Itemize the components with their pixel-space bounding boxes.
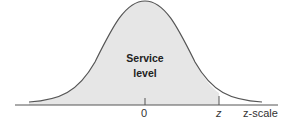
label-line-2: level <box>112 66 178 81</box>
label-line-1: Service <box>112 51 178 66</box>
service-level-label: Service level <box>112 51 178 81</box>
tick-label-zero: 0 <box>141 107 147 119</box>
tick-label-z: z <box>216 107 222 119</box>
axis-label: z-scale <box>243 107 278 119</box>
